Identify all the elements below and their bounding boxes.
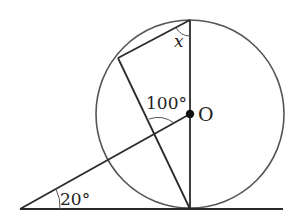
center-point [186,110,194,118]
label-x: x [174,31,184,51]
label-20: 20° [60,189,90,209]
geometry-diagram: x 100° O 20° [0,0,304,224]
angle-arc-100 [149,118,174,123]
secant-line [20,114,190,209]
label-O: O [198,103,214,125]
label-100: 100° [146,93,187,113]
